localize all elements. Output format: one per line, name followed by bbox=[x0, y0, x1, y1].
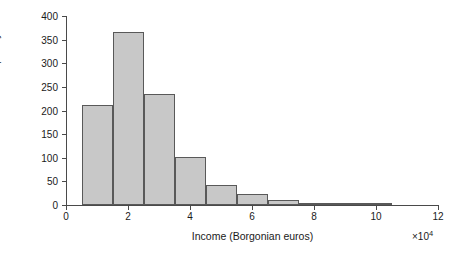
x-tick-label-8: 8 bbox=[311, 211, 317, 222]
x-tick-0 bbox=[66, 206, 67, 210]
x-tick-10 bbox=[376, 206, 377, 210]
y-tick-label-250: 250 bbox=[41, 81, 58, 92]
y-tick-label-50: 50 bbox=[47, 176, 58, 187]
x-tick-2 bbox=[128, 206, 129, 210]
histogram-bar bbox=[144, 94, 175, 206]
y-tick-label-100: 100 bbox=[41, 152, 58, 163]
histogram-bar bbox=[206, 185, 237, 205]
x-axis-multiplier-base: ×10 bbox=[412, 231, 429, 242]
plot-area bbox=[66, 16, 438, 205]
histogram-bar bbox=[237, 194, 268, 205]
x-tick-12 bbox=[438, 206, 439, 210]
x-tick-label-12: 12 bbox=[432, 211, 443, 222]
y-tick-label-group: 050100150200250300350400 bbox=[0, 0, 58, 262]
y-tick-label-0: 0 bbox=[52, 200, 58, 211]
x-tick-label-6: 6 bbox=[249, 211, 255, 222]
x-axis-label: Income (Borgonian euros) bbox=[66, 230, 439, 242]
y-tick-label-400: 400 bbox=[41, 11, 58, 22]
x-tick-label-0: 0 bbox=[63, 211, 69, 222]
x-axis-multiplier-exponent: 4 bbox=[429, 229, 433, 238]
y-tick-label-150: 150 bbox=[41, 129, 58, 140]
histogram-bar bbox=[330, 203, 361, 205]
y-tick-label-200: 200 bbox=[41, 105, 58, 116]
y-tick-label-350: 350 bbox=[41, 34, 58, 45]
histogram-bar bbox=[175, 157, 206, 205]
histogram-bar bbox=[299, 203, 330, 205]
histogram-figure: Frequency 050100150200250300350400 02468… bbox=[0, 0, 463, 262]
histogram-bar bbox=[82, 105, 113, 205]
x-tick-4 bbox=[190, 206, 191, 210]
histogram-bar bbox=[113, 32, 144, 205]
x-tick-label-4: 4 bbox=[187, 211, 193, 222]
x-tick-6 bbox=[252, 206, 253, 210]
x-tick-8 bbox=[314, 206, 315, 210]
x-tick-label-10: 10 bbox=[370, 211, 381, 222]
x-tick-label-2: 2 bbox=[125, 211, 131, 222]
histogram-bar bbox=[361, 203, 392, 205]
x-axis-multiplier: ×104 bbox=[412, 229, 433, 242]
histogram-bar bbox=[268, 200, 299, 205]
y-tick-label-300: 300 bbox=[41, 58, 58, 69]
y-tick-0 bbox=[62, 205, 66, 206]
